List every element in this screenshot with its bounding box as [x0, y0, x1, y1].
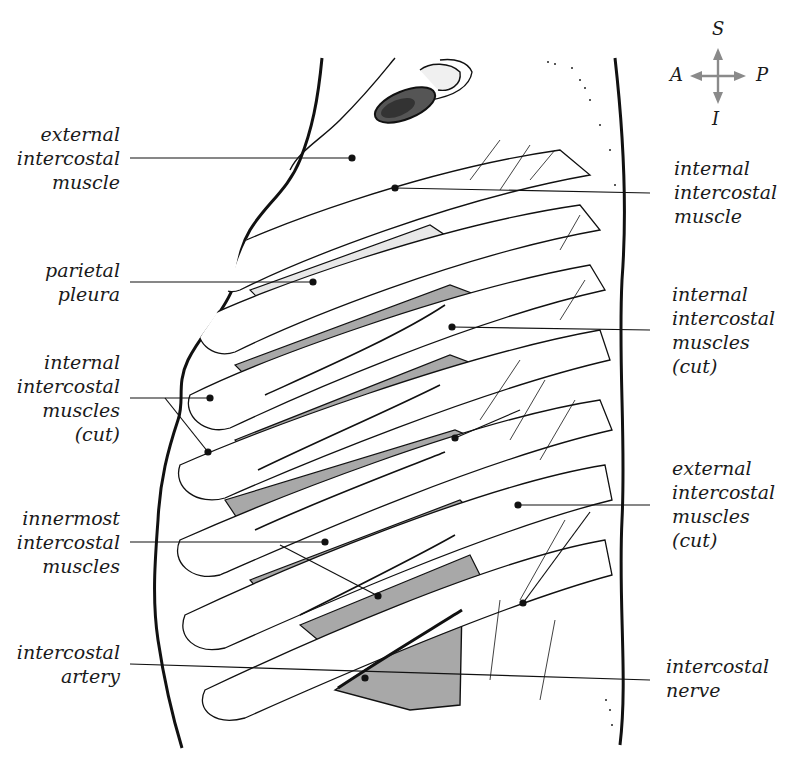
label-line: internal [17, 350, 120, 374]
label-line: pleura [45, 282, 120, 306]
label-line: intercostal [17, 530, 120, 554]
label-line: nerve [666, 678, 769, 702]
label-line: intercostal [674, 180, 777, 204]
label-line: (cut) [17, 422, 120, 446]
label-line: intercostal [672, 480, 775, 504]
label-intercostal-artery: intercostal artery [17, 640, 120, 688]
compass-anterior-label: A [670, 64, 683, 85]
label-line: intercostal [17, 146, 120, 170]
clavicle-region [370, 64, 460, 130]
label-line: internal [672, 282, 775, 306]
label-external-intercostal-muscle: external intercostal muscle [17, 122, 120, 194]
label-line: intercostal [17, 640, 120, 664]
compass-superior-label: S [712, 18, 724, 39]
label-line: muscle [674, 204, 777, 228]
label-line: (cut) [672, 354, 775, 378]
label-internal-intercostal-muscles-cut-right: internal intercostal muscles (cut) [672, 282, 775, 378]
label-line: intercostal [17, 374, 120, 398]
label-parietal-pleura: parietal pleura [45, 258, 120, 306]
label-line: artery [17, 664, 120, 688]
label-line: intercostal [666, 654, 769, 678]
label-external-intercostal-muscles-cut: external intercostal muscles (cut) [672, 456, 775, 552]
label-line: external [17, 122, 120, 146]
label-innermost-intercostal-muscles: innermost intercostal muscles [17, 506, 120, 578]
compass-posterior-label: P [756, 64, 768, 85]
label-line: innermost [17, 506, 120, 530]
label-line: parietal [45, 258, 120, 282]
ribs [178, 150, 612, 720]
label-internal-intercostal-muscle: internal intercostal muscle [674, 156, 777, 228]
label-line: intercostal [672, 306, 775, 330]
label-line: muscles [17, 398, 120, 422]
label-line: (cut) [672, 528, 775, 552]
label-line: internal [674, 156, 777, 180]
thoracic-wall-diagram: S I A P external intercostal muscle pari… [0, 0, 788, 775]
label-line: muscles [672, 330, 775, 354]
label-line: muscle [17, 170, 120, 194]
label-line: external [672, 456, 775, 480]
compass-inferior-label: I [712, 108, 719, 129]
label-intercostal-nerve: intercostal nerve [666, 654, 769, 702]
label-internal-intercostal-muscles-cut-left: internal intercostal muscles (cut) [17, 350, 120, 446]
label-line: muscles [17, 554, 120, 578]
orientation-compass [690, 48, 746, 104]
label-line: muscles [672, 504, 775, 528]
